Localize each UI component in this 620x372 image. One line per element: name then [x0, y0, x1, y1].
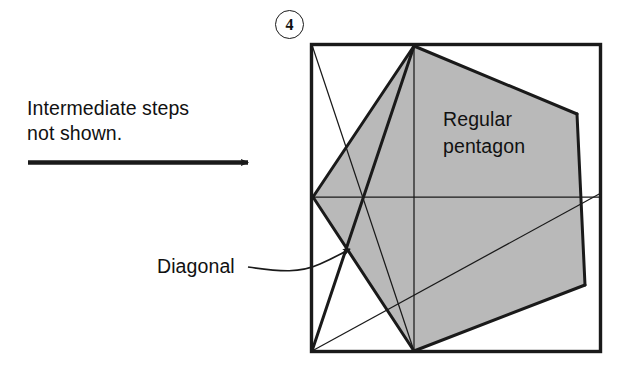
regular-pentagon-label: Regular pentagon: [443, 106, 525, 160]
step-number-badge: 4: [275, 10, 304, 39]
origami-step-diagram: [0, 0, 620, 372]
intermediate-steps-note: Intermediate steps not shown.: [27, 96, 189, 146]
diagonal-label: Diagonal: [157, 255, 235, 278]
figure-canvas: 4 Intermediate steps not shown. Diagonal…: [0, 0, 620, 372]
folded-square-sheet: [311, 44, 601, 352]
